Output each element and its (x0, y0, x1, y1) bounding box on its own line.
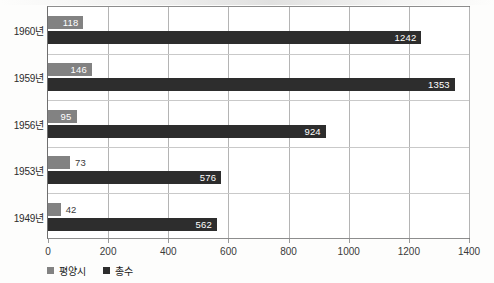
legend-label-1: 총수 (115, 263, 133, 278)
y-axis-label-1: 1959년 (0, 70, 44, 85)
bar-1956년-총수 (48, 125, 326, 138)
x-tick-mark-7 (469, 239, 470, 243)
legend-item-0[interactable]: 평양시 (47, 263, 85, 278)
y-axis-label-3: 1953년 (0, 163, 44, 178)
bar-1953년-평양시 (48, 156, 70, 169)
x-tick-label-3: 600 (220, 246, 237, 257)
x-tick-label-0: 0 (45, 246, 51, 257)
data-label-1956년-평양시: 95 (55, 110, 72, 123)
data-label-1949년-총수: 562 (189, 218, 212, 231)
x-tick-label-5: 1000 (338, 246, 360, 257)
x-tick-label-2: 400 (160, 246, 177, 257)
x-tick-mark-1 (108, 239, 109, 243)
y-axis-label-2: 1956년 (0, 117, 44, 132)
x-tick-mark-6 (409, 239, 410, 243)
data-label-1953년-평양시: 73 (75, 156, 86, 169)
data-label-1960년-총수: 1242 (387, 31, 416, 44)
category-separator (48, 54, 469, 55)
x-tick-label-7: 1400 (458, 246, 480, 257)
y-axis-label-4: 1949년 (0, 210, 44, 225)
data-label-1949년-평양시: 42 (66, 203, 77, 216)
bar-chart: 11812421461353959247357642562 1960년1959년… (0, 0, 494, 283)
legend-label-0: 평양시 (59, 263, 85, 278)
legend-swatch-1 (103, 267, 110, 274)
category-separator (48, 147, 469, 148)
x-tick-mark-2 (168, 239, 169, 243)
x-tick-mark-4 (289, 239, 290, 243)
x-tick-mark-5 (349, 239, 350, 243)
data-label-1953년-총수: 576 (193, 171, 216, 184)
y-axis-label-0: 1960년 (0, 23, 44, 38)
plot-area: 11812421461353959247357642562 (47, 6, 470, 239)
x-tick-mark-3 (228, 239, 229, 243)
category-separator (48, 193, 469, 194)
category-separator (48, 100, 469, 101)
data-label-1956년-총수: 924 (298, 125, 321, 138)
gridline (469, 7, 470, 238)
data-label-1959년-평양시: 146 (64, 63, 87, 76)
x-tick-label-1: 200 (100, 246, 117, 257)
legend-swatch-0 (47, 267, 54, 274)
x-tick-label-4: 800 (280, 246, 297, 257)
data-label-1959년-총수: 1353 (421, 78, 450, 91)
x-tick-mark-0 (48, 239, 49, 243)
data-label-1960년-평양시: 118 (55, 16, 78, 29)
legend-item-1[interactable]: 총수 (103, 263, 133, 278)
bar-1959년-총수 (48, 78, 455, 91)
chart-legend: 평양시총수 (47, 263, 133, 278)
bar-1949년-평양시 (48, 203, 61, 216)
x-tick-label-6: 1200 (398, 246, 420, 257)
bar-1960년-총수 (48, 31, 421, 44)
